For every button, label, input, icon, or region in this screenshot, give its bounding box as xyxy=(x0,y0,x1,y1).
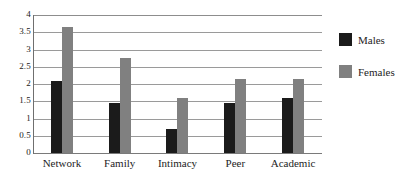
x-axis-label-academic: Academic xyxy=(264,157,322,170)
y-axis-tick-label: 1.5 xyxy=(3,96,31,105)
bar-group xyxy=(264,15,322,153)
x-axis-label-peer: Peer xyxy=(206,157,264,170)
bar-group xyxy=(33,15,91,153)
y-axis-tick-label: 0.5 xyxy=(3,131,31,140)
bar-intimacy-females xyxy=(177,98,188,153)
bar-peer-males xyxy=(224,103,235,153)
y-axis-tick-label: 0 xyxy=(3,148,31,157)
bar-family-males xyxy=(109,103,120,153)
legend-item-females[interactable]: Females xyxy=(339,65,409,78)
x-axis-label-family: Family xyxy=(91,157,149,170)
chart-legend: MalesFemales xyxy=(339,33,409,97)
bar-chart: 00.511.522.533.54 NetworkFamilyIntimacyP… xyxy=(0,0,411,190)
y-axis-tick-label: 3.5 xyxy=(3,27,31,36)
legend-label: Males xyxy=(358,34,385,46)
y-axis-tick-label: 1 xyxy=(3,114,31,123)
x-axis-category-labels: NetworkFamilyIntimacyPeerAcademic xyxy=(33,157,322,170)
x-axis-label-network: Network xyxy=(33,157,91,170)
legend-label: Females xyxy=(358,66,395,78)
bar-network-males xyxy=(51,81,62,153)
y-axis-tick-label: 4 xyxy=(3,10,31,19)
bar-group xyxy=(91,15,149,153)
y-axis-tick-label: 2 xyxy=(3,79,31,88)
y-axis-tick-labels: 00.511.522.533.54 xyxy=(0,0,31,190)
bar-group xyxy=(149,15,207,153)
x-axis-label-intimacy: Intimacy xyxy=(149,157,207,170)
bar-family-females xyxy=(120,58,131,153)
bars-layer xyxy=(33,15,322,153)
bar-academic-males xyxy=(282,98,293,153)
bar-academic-females xyxy=(293,79,304,153)
bar-peer-females xyxy=(235,79,246,153)
bar-network-females xyxy=(62,27,73,153)
legend-item-males[interactable]: Males xyxy=(339,33,409,46)
bar-group xyxy=(206,15,264,153)
y-axis-tick-label: 3 xyxy=(3,45,31,54)
legend-swatch-icon xyxy=(339,65,352,78)
y-axis-tick-label: 2.5 xyxy=(3,62,31,71)
bar-intimacy-males xyxy=(166,129,177,153)
gridline xyxy=(33,153,322,154)
legend-swatch-icon xyxy=(339,33,352,46)
